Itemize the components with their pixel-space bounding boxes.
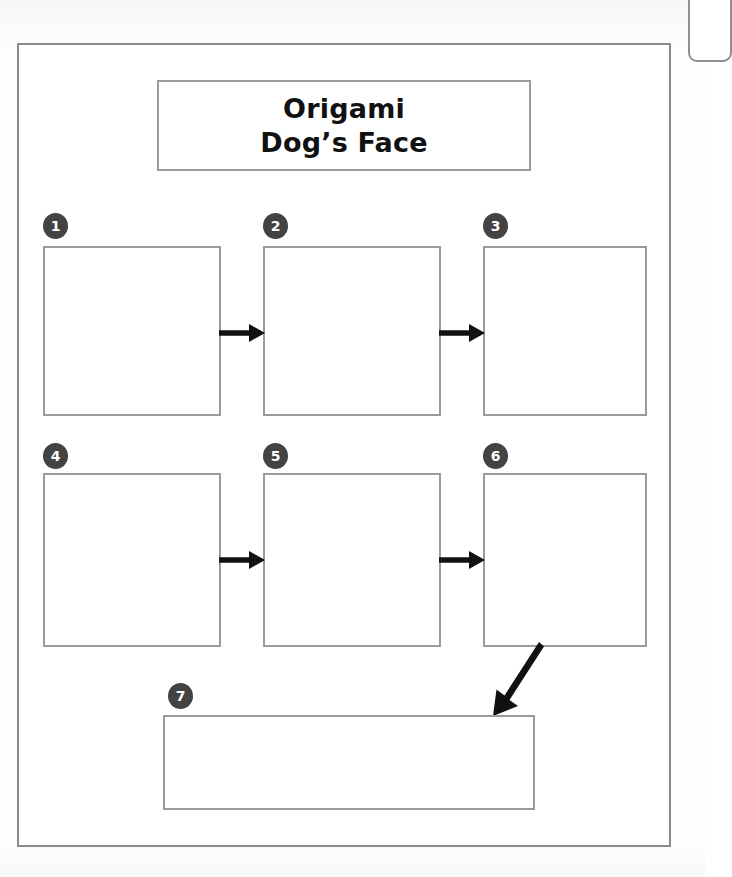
worksheet-title-line-1: Origami bbox=[283, 92, 405, 125]
arrow-step-2-to-3 bbox=[439, 324, 485, 342]
step-box-1[interactable] bbox=[43, 246, 221, 416]
step-box-6[interactable] bbox=[483, 473, 647, 647]
step-badge-2: 2 bbox=[263, 213, 288, 239]
step-badge-6: 6 bbox=[483, 443, 508, 469]
worksheet-title-line-2: Dog’s Face bbox=[260, 126, 427, 159]
step-badge-4: 4 bbox=[43, 443, 68, 469]
step-box-5[interactable] bbox=[263, 473, 441, 647]
step-badge-7: 7 bbox=[168, 683, 193, 709]
arrow-step-6-to-7 bbox=[484, 640, 550, 722]
step-box-4[interactable] bbox=[43, 473, 221, 647]
worksheet-title-box: Origami Dog’s Face bbox=[157, 80, 531, 171]
step-box-7[interactable] bbox=[163, 715, 535, 810]
page-edge-tab-clipped bbox=[688, 0, 732, 62]
step-badge-1: 1 bbox=[43, 213, 68, 239]
step-box-3[interactable] bbox=[483, 246, 647, 416]
arrow-step-5-to-6 bbox=[439, 551, 485, 569]
step-badge-3: 3 bbox=[483, 213, 508, 239]
arrow-step-1-to-2 bbox=[219, 324, 265, 342]
step-box-2[interactable] bbox=[263, 246, 441, 416]
step-badge-5: 5 bbox=[263, 443, 288, 469]
arrow-step-4-to-5 bbox=[219, 551, 265, 569]
